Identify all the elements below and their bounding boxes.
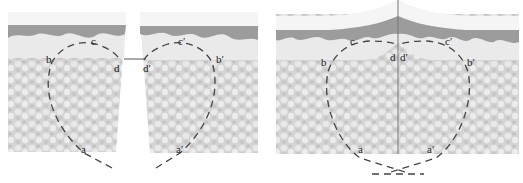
label-c: c	[350, 35, 355, 47]
label-d-prime: d′	[400, 51, 408, 63]
label-d: d	[114, 62, 120, 74]
label-b-prime: b′	[216, 53, 224, 65]
label-a: a	[358, 143, 363, 155]
left-wound-edge	[8, 12, 126, 152]
label-a: a	[81, 143, 86, 155]
label-a-prime: a′	[176, 143, 183, 155]
label-a-prime: a′	[427, 143, 434, 155]
label-c: c	[91, 35, 96, 47]
right-panel: c b d a c′ b′ d′ a′	[276, 0, 519, 174]
label-b: b	[46, 53, 52, 65]
wound-closure-diagram: c b d a c′ b′ d′ a′ c b d a c′ b′ d′ a′	[0, 0, 523, 183]
closed-wound-tissue	[276, 0, 519, 154]
label-d-prime: d′	[143, 62, 151, 74]
right-wound-edge	[140, 12, 258, 153]
left-panel: c b d a c′ b′ d′ a′	[8, 12, 258, 168]
label-b-prime: b′	[467, 56, 475, 68]
label-d: d	[390, 51, 396, 63]
label-c-prime: c′	[445, 35, 452, 47]
label-b: b	[321, 56, 327, 68]
label-c-prime: c′	[178, 35, 185, 47]
